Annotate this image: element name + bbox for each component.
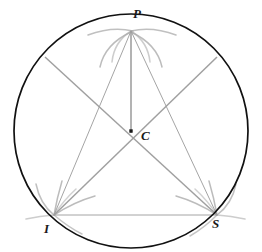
arc-left-lower [54,215,82,234]
vertex-label-s: S [212,217,219,230]
arc-apex-right-inner [131,31,150,62]
construction-arcs-left-vertex [26,181,95,234]
vertex-label-p: P [133,7,141,20]
geometry-figure: P C I S [0,0,262,252]
triangle-chords [54,31,217,215]
arc-apex-left-inner [112,31,131,62]
center-dot [129,129,132,132]
diameter-upper-right-to-left-vertex [54,57,217,215]
chord-p-to-i [54,31,131,215]
geometry-canvas [0,0,262,252]
chord-p-to-s [131,31,217,215]
vertex-label-c: C [141,129,150,142]
vertex-label-i: I [44,222,49,235]
arc-apex-right-outer [131,29,176,35]
arc-right-outer-low [217,215,245,219]
construction-arcs-apex [88,29,176,67]
